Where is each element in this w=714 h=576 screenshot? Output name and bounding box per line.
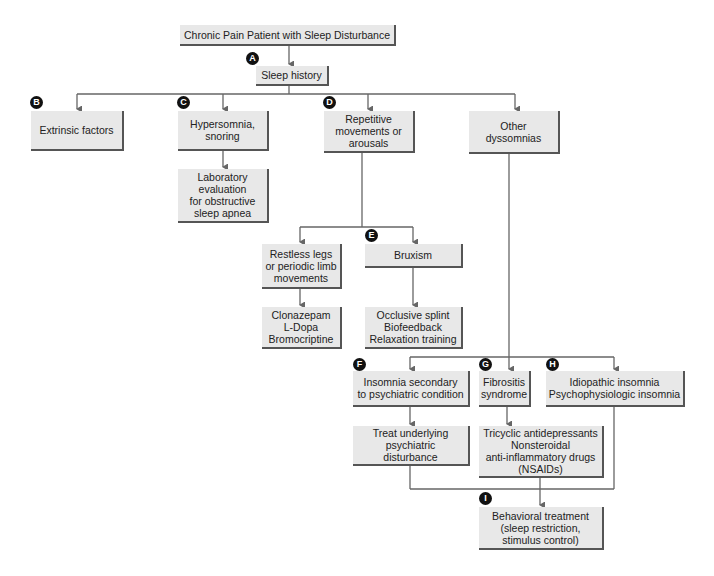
node-treat-psychiatric: Treat underlying psychiatric disturbance xyxy=(353,426,470,466)
node-fibrositis-syndrome: Fibrositis syndrome xyxy=(479,371,531,407)
node-extrinsic-factors: Extrinsic factors xyxy=(31,111,124,151)
node-hypersomnia-snoring: Hypersomnia, snoring xyxy=(178,111,269,151)
badge-b: B xyxy=(30,96,43,109)
node-repetitive-movements: Repetitive movements or arousals xyxy=(324,111,415,153)
connector-lines xyxy=(0,0,714,576)
badge-f: F xyxy=(353,358,366,371)
badge-e: E xyxy=(365,229,378,242)
node-sleep-history: Sleep history xyxy=(256,66,329,86)
node-restless-legs: Restless legs or periodic limb movements xyxy=(262,244,342,289)
node-occlusive-splint: Occlusive splint Biofeedback Relaxation … xyxy=(365,307,463,349)
node-insomnia-psychiatric: Insomnia secondary to psychiatric condit… xyxy=(353,371,470,407)
badge-i: I xyxy=(479,492,492,505)
node-other-dyssomnias: Other dyssomnias xyxy=(469,111,560,154)
flowchart: Chronic Pain Patient with Sleep Disturba… xyxy=(0,0,714,576)
badge-d: D xyxy=(323,96,336,109)
badge-a: A xyxy=(246,52,259,65)
node-idiopathic-insomnia: Idiopathic insomnia Psychophysiologic in… xyxy=(546,371,685,407)
node-bruxism: Bruxism xyxy=(365,244,463,268)
badge-g: G xyxy=(479,358,492,371)
node-chronic-pain-patient: Chronic Pain Patient with Sleep Disturba… xyxy=(180,25,396,46)
node-tricyclic-nsaids: Tricyclic antidepressants Nonsteroidal a… xyxy=(479,426,604,478)
node-clonazepam-ldopa: Clonazepam L-Dopa Bromocriptine xyxy=(262,307,342,349)
badge-c: C xyxy=(177,96,190,109)
node-behavioral-treatment: Behavioral treatment (sleep restriction,… xyxy=(479,507,604,550)
node-laboratory-evaluation: Laboratory evaluation for obstructive sl… xyxy=(178,169,269,223)
badge-h: H xyxy=(546,358,559,371)
